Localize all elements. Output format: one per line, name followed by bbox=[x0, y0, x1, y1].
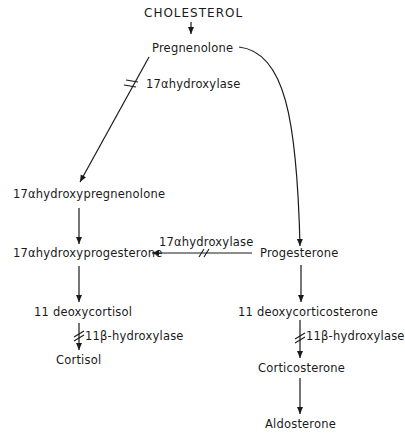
enzyme-11b-hydroxylase-right: 11β-hydroxylase bbox=[306, 331, 405, 343]
arrow-pregnenolone-progesterone bbox=[239, 47, 300, 246]
node-corticosterone: Corticosterone bbox=[258, 363, 345, 375]
node-aldosterone: Aldosterone bbox=[265, 419, 336, 431]
node-pregnenolone: Pregnenolone bbox=[152, 43, 233, 55]
enzyme-17a-hydroxylase-top: 17αhydroxylase bbox=[146, 79, 241, 91]
node-17a-hydroxypregnenolone: 17αhydroxypregnenolone bbox=[13, 189, 165, 201]
enzyme-17a-hydroxylase-mid: 17αhydroxylase bbox=[159, 237, 254, 249]
node-cholesterol: CHOLESTEROL bbox=[144, 7, 243, 19]
node-11-deoxycorticosterone: 11 deoxycorticosterone bbox=[238, 307, 378, 319]
enzyme-11b-hydroxylase-left: 11β-hydroxylase bbox=[85, 331, 184, 343]
node-progesterone: Progesterone bbox=[260, 248, 338, 260]
arrow-pregnenolone-hydroxypregnenolone bbox=[80, 57, 149, 182]
node-cortisol: Cortisol bbox=[56, 355, 101, 367]
node-17a-hydroxyprogesterone: 17αhydroxyprogesterone bbox=[13, 248, 162, 260]
node-11-deoxycortisol: 11 deoxycortisol bbox=[34, 307, 132, 319]
